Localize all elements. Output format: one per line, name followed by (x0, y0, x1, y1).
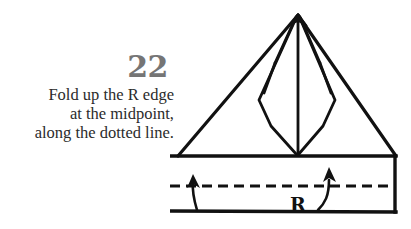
instruction-line-2: at the midpoint, (0, 104, 174, 123)
instruction-line-1: Fold up the R edge (0, 85, 174, 104)
origami-diagram: R (170, 0, 411, 229)
instruction-line-3: along the dotted line. (0, 123, 174, 142)
origami-diagram-svg: R (170, 0, 411, 229)
band-bottom-edge (170, 211, 396, 212)
inner-flap-kite (259, 16, 335, 155)
instruction-panel: 22 Fold up the R edge at the midpoint, a… (0, 52, 180, 142)
label-r-edge: R (290, 193, 306, 215)
curved-up-arrow-left (187, 174, 200, 210)
curved-up-arrow-right (318, 167, 336, 210)
page-canvas: 22 Fold up the R edge at the midpoint, a… (0, 0, 411, 229)
step-number: 22 (0, 52, 180, 82)
instruction-text: Fold up the R edge at the midpoint, alon… (0, 85, 180, 142)
